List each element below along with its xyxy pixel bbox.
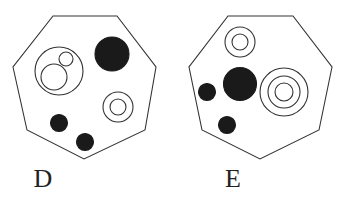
filled-dot-left-icon (199, 84, 216, 101)
figure-d: D (13, 16, 156, 193)
filled-dot-left-icon (51, 115, 68, 132)
top-ring-outer-icon (225, 27, 255, 57)
inner-medium-circle-icon (41, 64, 67, 90)
figure-canvas: D E (0, 0, 351, 198)
figure-label: E (225, 164, 241, 193)
figure-label: D (34, 164, 53, 193)
filled-dot-bottom-icon (77, 134, 94, 151)
ring-outer-icon (103, 92, 133, 122)
triple-ring-outer-icon (260, 68, 308, 116)
triple-ring-inner-icon (275, 83, 293, 101)
filled-large-dot-icon (224, 68, 257, 101)
ring-inner-icon (110, 99, 126, 115)
figure-e: E (189, 16, 332, 193)
inner-small-circle-icon (59, 52, 73, 66)
filled-dot-bottom-icon (219, 117, 236, 134)
filled-large-dot-icon (95, 37, 129, 71)
top-ring-inner-icon (232, 34, 248, 50)
triple-ring-middle-icon (268, 76, 300, 108)
